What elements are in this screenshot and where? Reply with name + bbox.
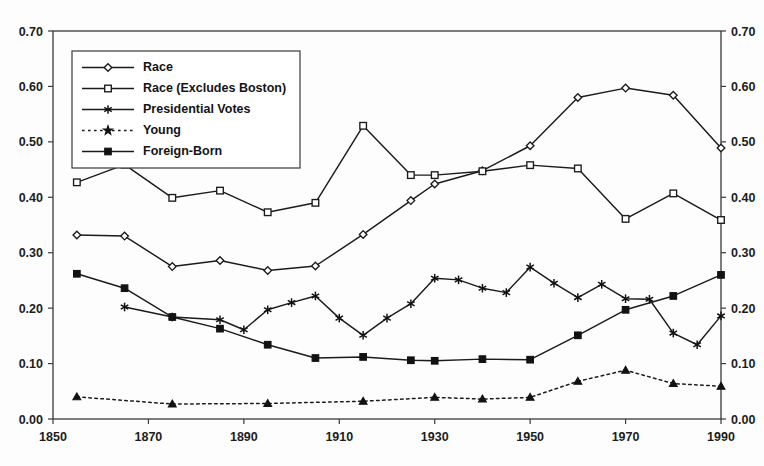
y-axis-label-right: 0.30 bbox=[731, 246, 755, 260]
y-axis-label-right: 0.70 bbox=[731, 25, 755, 39]
marker-filled-square bbox=[527, 356, 534, 363]
marker-open-square bbox=[718, 217, 725, 224]
y-axis-label-left: 0.50 bbox=[19, 135, 43, 149]
series-presidential-votes bbox=[121, 263, 725, 349]
marker-open-square bbox=[105, 85, 112, 92]
marker-filled-square bbox=[360, 354, 367, 361]
marker-filled-square bbox=[121, 285, 128, 292]
x-axis-label: 1950 bbox=[516, 430, 544, 444]
y-axis-label-left: 0.40 bbox=[19, 191, 43, 205]
marker-filled-square bbox=[169, 314, 176, 321]
chart-container: 0.000.000.100.100.200.200.300.300.400.40… bbox=[0, 0, 764, 466]
series-path bbox=[125, 267, 721, 345]
marker-open-square bbox=[264, 209, 271, 216]
x-axis-label: 1910 bbox=[325, 430, 353, 444]
line-chart: 0.000.000.100.100.200.200.300.300.400.40… bbox=[0, 0, 764, 466]
marker-filled-square bbox=[718, 272, 725, 279]
marker-star bbox=[359, 331, 366, 340]
marker-open-square bbox=[431, 172, 438, 179]
legend-label: Race bbox=[143, 60, 173, 74]
marker-open-square bbox=[622, 216, 629, 223]
marker-star bbox=[574, 293, 581, 302]
marker-open-square bbox=[169, 195, 176, 202]
series-foreign-born bbox=[74, 270, 725, 364]
x-axis-label: 1990 bbox=[707, 430, 735, 444]
marker-open-square bbox=[527, 162, 534, 169]
marker-filled-square bbox=[408, 357, 415, 364]
marker-filled-square bbox=[431, 358, 438, 365]
marker-filled-square bbox=[217, 325, 224, 332]
marker-open-square bbox=[479, 168, 486, 175]
y-axis-label-right: 0.60 bbox=[731, 80, 755, 94]
y-axis-label-left: 0.70 bbox=[19, 25, 43, 39]
y-axis-label-right: 0.20 bbox=[731, 302, 755, 316]
marker-star bbox=[550, 279, 557, 288]
y-axis-label-left: 0.20 bbox=[19, 302, 43, 316]
marker-open-diamond bbox=[216, 257, 224, 265]
marker-filled-square bbox=[479, 356, 486, 363]
marker-filled-square bbox=[622, 307, 629, 314]
marker-open-diamond bbox=[312, 262, 320, 270]
y-axis-label-left: 0.60 bbox=[19, 80, 43, 94]
marker-open-diamond bbox=[264, 267, 272, 275]
legend-label: Race (Excludes Boston) bbox=[143, 81, 286, 95]
y-axis-label-left: 0.00 bbox=[19, 413, 43, 427]
marker-filled-square bbox=[105, 148, 112, 155]
series-path bbox=[77, 370, 721, 404]
x-axis-label: 1850 bbox=[39, 430, 67, 444]
marker-open-square bbox=[74, 179, 81, 186]
legend-label: Young bbox=[143, 123, 181, 137]
marker-filled-square bbox=[312, 355, 319, 362]
marker-filled-square bbox=[575, 332, 582, 339]
marker-filled-triangle bbox=[622, 366, 630, 373]
marker-open-diamond bbox=[73, 231, 81, 239]
marker-open-square bbox=[217, 187, 224, 194]
x-axis-label: 1970 bbox=[612, 430, 640, 444]
x-axis-label: 1890 bbox=[230, 430, 258, 444]
marker-open-diamond bbox=[121, 232, 129, 240]
marker-open-square bbox=[670, 190, 677, 197]
marker-filled-square bbox=[264, 341, 271, 348]
legend-label: Presidential Votes bbox=[143, 102, 250, 116]
y-axis-label-right: 0.10 bbox=[731, 357, 755, 371]
x-axis-label: 1930 bbox=[421, 430, 449, 444]
marker-open-diamond bbox=[168, 263, 176, 271]
marker-open-diamond bbox=[622, 84, 630, 92]
x-axis-label: 1870 bbox=[135, 430, 163, 444]
y-axis-label-left: 0.30 bbox=[19, 246, 43, 260]
legend-label: Foreign-Born bbox=[143, 144, 222, 158]
y-axis-label-right: 0.40 bbox=[731, 191, 755, 205]
y-axis-label-right: 0.50 bbox=[731, 135, 755, 149]
marker-open-square bbox=[408, 172, 415, 179]
chart-legend: RaceRace (Excludes Boston)Presidential V… bbox=[72, 51, 300, 168]
marker-open-square bbox=[575, 165, 582, 172]
marker-open-square bbox=[312, 200, 319, 207]
series-young bbox=[73, 366, 725, 407]
marker-filled-square bbox=[74, 270, 81, 277]
marker-star bbox=[383, 314, 390, 323]
marker-open-square bbox=[360, 122, 367, 129]
marker-star bbox=[598, 280, 605, 289]
y-axis-label-right: 0.00 bbox=[731, 413, 755, 427]
marker-filled-square bbox=[670, 293, 677, 300]
y-axis-label-left: 0.10 bbox=[19, 357, 43, 371]
